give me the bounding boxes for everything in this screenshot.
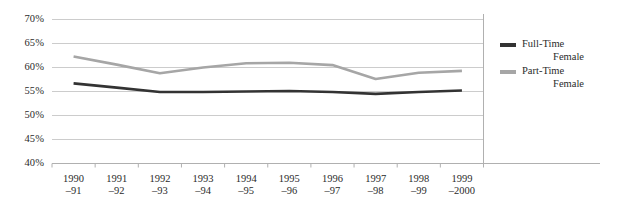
x-axis-tick-label: 1998–99 [397,173,441,198]
y-axis-tick-label: 65% [6,38,44,49]
legend-label-full-time-line2: Female [522,51,584,64]
x-axis-tick-label-line1: 1996 [322,173,343,184]
series-line-full-time-female [74,83,462,94]
y-axis-tick-label: 45% [6,134,44,145]
legend-item-part-time: Part-Time Female [500,65,612,90]
x-axis-tick-label-line2: –95 [224,185,268,198]
legend-label-part-time: Part-Time Female [522,65,584,90]
series-lines [74,56,462,93]
y-axis-tick-label: 40% [6,158,44,169]
legend-label-full-time-line1: Full-Time [522,38,584,51]
x-axis-tick-label: 1996–97 [310,173,354,198]
x-axis-tick-label-line2: –98 [354,185,398,198]
x-axis-tick-label-line2: –93 [138,185,182,198]
y-axis-tick-label: 70% [6,14,44,25]
legend-swatch-part-time-icon [500,70,516,74]
x-axis-tick-label-line2: –97 [310,185,354,198]
x-axis-tick-label-line1: 1994 [236,173,257,184]
legend-label-full-time: Full-Time Female [522,38,584,63]
y-axis-tick-label: 60% [6,62,44,73]
x-axis-tick-label-line2: –96 [267,185,311,198]
x-axis-tick-label-line1: 1991 [106,173,127,184]
legend-item-full-time: Full-Time Female [500,38,612,63]
x-axis-tick-label-line2: –91 [52,185,96,198]
legend-label-part-time-line2: Female [522,78,584,91]
y-axis-tick-label: 50% [6,110,44,121]
x-axis-tick-label-line2: –2000 [440,185,484,198]
x-axis-tick-label: 1992–93 [138,173,182,198]
x-axis-tick-label-line2: –92 [95,185,139,198]
chart-legend: Full-Time Female Part-Time Female [500,38,612,92]
x-axis-tick-label: 1990–91 [52,173,96,198]
x-axis-tick-label-line1: 1990 [63,173,84,184]
x-axis-ticks [52,164,484,168]
y-axis-tick-label: 55% [6,86,44,97]
x-axis-tick-label-line1: 1992 [149,173,170,184]
x-axis-tick-label-line1: 1998 [408,173,429,184]
x-axis-tick-label: 1994–95 [224,173,268,198]
line-chart: 70%65%60%55%50%45%40% 1990–911991–921992… [0,0,617,212]
legend-label-part-time-line1: Part-Time [522,65,584,78]
x-axis-tick-label: 1991–92 [95,173,139,198]
x-axis-tick-label: 1993–94 [181,173,225,198]
x-axis-tick-label-line2: –94 [181,185,225,198]
x-axis-tick-label-line1: 1999 [451,173,472,184]
x-axis-tick-label-line1: 1993 [193,173,214,184]
x-axis-tick-label-line1: 1997 [365,173,386,184]
legend-swatch-full-time-icon [500,43,516,47]
x-axis-tick-label: 1995–96 [267,173,311,198]
x-axis-tick-label-line2: –99 [397,185,441,198]
x-axis-tick-label-line1: 1995 [279,173,300,184]
x-axis-tick-label: 1999–2000 [440,173,484,198]
x-axis-tick-label: 1997–98 [354,173,398,198]
